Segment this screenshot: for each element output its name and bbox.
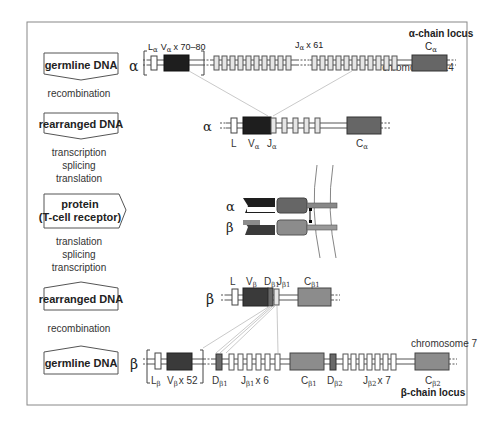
protein-beta-symbol: β xyxy=(226,220,234,235)
alpha-processing-step-3: translation xyxy=(56,173,102,184)
beta-rearranged-L: L xyxy=(230,276,236,287)
alpha-recombination-step: recombination xyxy=(48,88,111,99)
beta-symbol: β xyxy=(130,356,138,372)
beta-j2-segments xyxy=(343,354,396,370)
alpha-processing-step-1: transcription xyxy=(52,147,106,158)
alpha-rearranged-L: L xyxy=(231,138,237,149)
beta-processing-step-1: translation xyxy=(56,236,102,247)
alpha-symbol: α xyxy=(129,58,139,74)
alpha-germline-label: germline DNA xyxy=(45,59,118,71)
alpha-rearranged-label: rearranged DNA xyxy=(39,118,123,130)
protein-label: protein xyxy=(61,198,99,210)
protein-box: protein (T-cell receptor) xyxy=(39,194,126,228)
beta-chromosome: chromosome 7 xyxy=(411,338,478,349)
protein-sublabel: (T-cell receptor) xyxy=(39,211,122,223)
beta-rearranged-symbol: β xyxy=(206,291,214,307)
beta-germline-label: germline DNA xyxy=(45,357,118,369)
beta-locus-title: β-chain locus xyxy=(401,387,466,398)
beta-germline-box: germline DNA xyxy=(44,346,118,374)
protein-alpha-symbol: α xyxy=(226,199,235,214)
alpha-germline-box: germline DNA xyxy=(44,53,118,80)
alpha-rearranged-symbol: α xyxy=(203,119,212,134)
alpha-processing-step-2: splicing xyxy=(62,160,95,171)
tcr-gene-rearrangement-diagram: germline DNA recombination rearranged DN… xyxy=(0,0,487,427)
beta-recombination-step: recombination xyxy=(48,323,111,334)
beta-processing-step-2: splicing xyxy=(62,249,95,260)
beta-rearranged-label: rearranged DNA xyxy=(39,293,123,305)
beta-processing-step-3: transcription xyxy=(52,262,106,273)
alpha-locus-title: α-chain locus xyxy=(409,28,474,39)
